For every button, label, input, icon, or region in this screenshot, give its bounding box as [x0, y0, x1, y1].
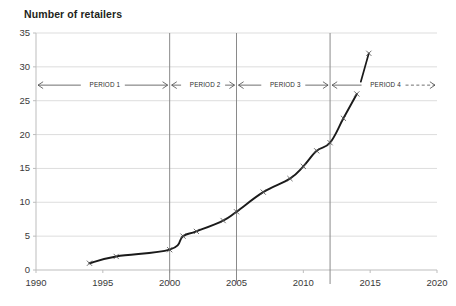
axis-lines [33, 33, 437, 273]
plot-area [0, 0, 456, 306]
data-point-marker [287, 176, 292, 181]
series-line [361, 53, 369, 81]
period-divider-lines [170, 33, 330, 284]
data-point-markers [87, 51, 372, 266]
data-point-marker [314, 148, 319, 153]
series-line [89, 94, 356, 263]
chart-container: Number of retailers 05101520253035 19901… [0, 0, 456, 306]
